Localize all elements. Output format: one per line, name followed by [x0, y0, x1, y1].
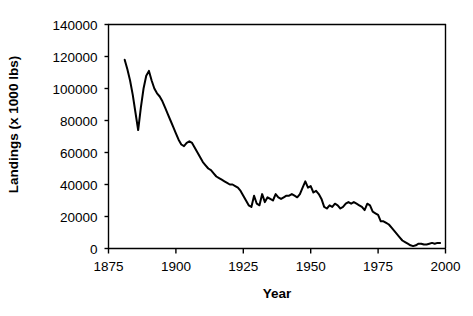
- x-tick-label: 1925: [228, 259, 258, 274]
- y-tick-label: 60000: [60, 146, 98, 161]
- y-tick-label: 0: [90, 242, 98, 257]
- y-tick-label: 100000: [52, 82, 97, 97]
- y-axis-title: Landings (x 1000 lbs): [0, 0, 28, 248]
- y-tick-label: 40000: [60, 178, 98, 193]
- y-tick-label: 80000: [60, 114, 98, 129]
- x-tick-label: 2000: [430, 259, 460, 274]
- line-chart-plot: 020000400006000080000100000120000140000 …: [0, 0, 473, 316]
- y-tick-label: 20000: [60, 210, 98, 225]
- x-tick-label: 1875: [93, 259, 123, 274]
- chart-container: Landings (x 1000 lbs) 020000400006000080…: [0, 0, 473, 316]
- x-tick-label: 1900: [161, 259, 191, 274]
- x-axis-tick-marks: [109, 249, 446, 254]
- y-axis-tick-labels: 020000400006000080000100000120000140000: [52, 18, 97, 257]
- x-axis-title: Year: [108, 286, 446, 301]
- x-tick-label: 1950: [296, 259, 326, 274]
- y-axis-title-text: Landings (x 1000 lbs): [7, 55, 22, 192]
- data-series-line: [125, 60, 440, 246]
- x-tick-label: 1975: [363, 259, 393, 274]
- y-tick-label: 140000: [52, 18, 97, 33]
- x-axis-tick-labels: 187519001925195019752000: [93, 259, 460, 274]
- y-tick-label: 120000: [52, 50, 97, 65]
